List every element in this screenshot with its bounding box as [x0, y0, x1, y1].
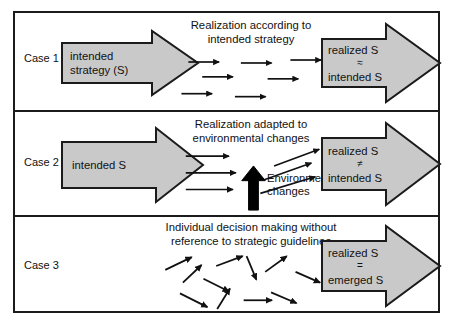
realized-strategy-arrow-3: realized S = emerged S: [320, 223, 442, 309]
realized-arrow-1-bottom: intended S: [328, 70, 394, 84]
realized-arrow-1-top: realized S: [328, 43, 394, 57]
environmental-change-arrow: [242, 166, 266, 210]
realized-arrow-3-top: realized S: [328, 246, 394, 260]
case-row-2: Case 2 intended S Realization adapted to…: [15, 110, 438, 215]
realized-arrow-2-bottom: intended S: [328, 171, 394, 185]
flow-arrow-group-2-incoming: [186, 156, 236, 189]
realized-strategy-arrow-2: realized S ≠ intended S: [320, 120, 442, 208]
case-row-1: Case 1 intended strategy (S) Realization…: [15, 13, 438, 110]
flow-arrow-group-3-scattered: [165, 256, 320, 309]
case-row-3: Case 3 Individual decision making withou…: [15, 215, 438, 313]
realized-arrow-2-top: realized S: [328, 144, 394, 158]
realized-arrow-2-symbol: ≠: [328, 158, 392, 169]
realized-arrow-1-symbol: ≈: [328, 57, 392, 68]
realized-arrow-3-bottom: emerged S: [328, 273, 394, 287]
strategy-realization-diagram: Case 1 intended strategy (S) Realization…: [0, 0, 457, 326]
realized-strategy-arrow-1: realized S ≈ intended S: [320, 21, 442, 105]
diagram-frame: Case 1 intended strategy (S) Realization…: [13, 11, 440, 313]
realized-arrow-3-symbol: =: [328, 260, 392, 271]
flow-arrow-group-1: [181, 60, 321, 97]
